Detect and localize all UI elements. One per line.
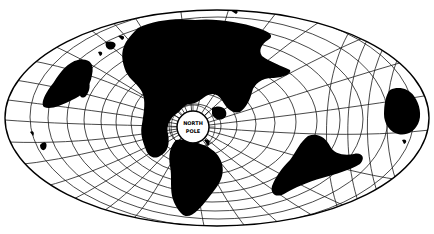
north-pole-cap: NORTH POLE: [171, 105, 215, 149]
pole-label-pole: POLE: [186, 128, 201, 134]
world-map: NORTH POLE: [0, 0, 434, 234]
pole-label-north: NORTH: [183, 120, 203, 126]
map-body: NORTH POLE: [0, 0, 434, 234]
map-canvas: NORTH POLE: [0, 0, 434, 234]
